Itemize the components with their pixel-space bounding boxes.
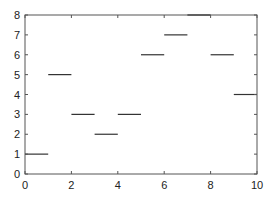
x-tick-label: 0 — [22, 179, 28, 191]
y-tick-label: 4 — [14, 89, 20, 101]
data-segments — [25, 15, 257, 154]
x-tick-label: 2 — [68, 179, 74, 191]
axes-box — [25, 15, 257, 174]
y-tick-label: 0 — [14, 168, 20, 180]
x-tick-label: 6 — [161, 179, 167, 191]
x-tick-label: 8 — [208, 179, 214, 191]
x-axis: 0246810 — [22, 15, 263, 191]
x-tick-label: 10 — [251, 179, 263, 191]
y-tick-label: 1 — [14, 148, 20, 160]
y-tick-label: 5 — [14, 69, 20, 81]
x-tick-label: 4 — [115, 179, 121, 191]
y-axis: 012345678 — [14, 9, 257, 180]
y-tick-label: 2 — [14, 128, 20, 140]
y-tick-label: 6 — [14, 49, 20, 61]
plot-area — [25, 15, 257, 174]
step-chart: 0246810 012345678 — [0, 0, 272, 201]
y-tick-label: 8 — [14, 9, 20, 21]
y-tick-label: 7 — [14, 29, 20, 41]
y-tick-label: 3 — [14, 108, 20, 120]
